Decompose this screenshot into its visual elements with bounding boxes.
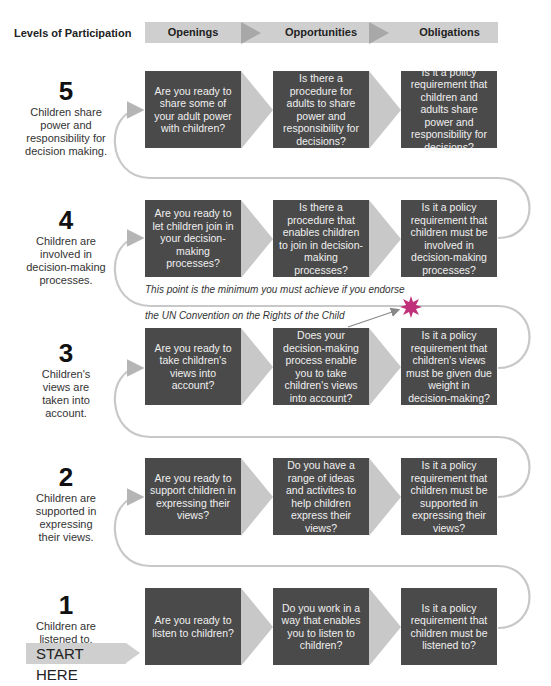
annotation-line-2: the UN Convention on the Rights of the C… <box>145 310 345 321</box>
level-1-label: 1 Children are listened to. <box>0 592 132 646</box>
level-description: Children's views are taken into account. <box>0 368 132 420</box>
stage-opportunities: Opportunities <box>273 22 369 43</box>
chevron-right-icon <box>241 22 261 44</box>
level-3-openings: Are you ready to take children's views i… <box>145 328 241 405</box>
chevron-right-icon <box>369 71 401 149</box>
chevron-right-icon <box>369 588 401 666</box>
chart-title: Levels of Participation <box>14 27 131 39</box>
level-3-label: 3 Children's views are taken into accoun… <box>0 340 132 420</box>
level-4-openings: Are you ready to let children join in yo… <box>145 200 241 277</box>
stage-openings: Openings <box>145 22 241 43</box>
level-description: Children are supported in expressing the… <box>0 492 132 544</box>
chevron-right-icon <box>369 458 401 536</box>
chevron-right-icon <box>241 71 273 149</box>
chevron-right-icon <box>241 458 273 536</box>
chevron-right-icon <box>369 328 401 406</box>
level-4-label: 4 Children are involved in decision-maki… <box>0 207 132 287</box>
level-number: 3 <box>0 340 132 366</box>
chevron-right-icon <box>241 200 273 278</box>
chevron-right-icon <box>241 328 273 406</box>
minimum-marker-star-icon <box>400 296 422 318</box>
stage-obligations: Obligations <box>401 22 498 43</box>
level-1-opportunities: Do you work in a way that enables you to… <box>273 588 369 665</box>
level-3-opportunities: Does your decision-making process enable… <box>273 328 369 405</box>
annotation-pointer <box>348 310 398 327</box>
level-1-obligations: Is it a policy requirement that children… <box>401 588 497 665</box>
level-number: 1 <box>0 592 132 618</box>
level-3-obligations: Is it a policy requirement that children… <box>401 328 497 405</box>
level-4-obligations: Is it a policy requirement that children… <box>401 200 497 277</box>
level-number: 2 <box>0 464 132 490</box>
chevron-right-icon <box>369 200 401 278</box>
level-2-opportunities: Do you have a range of ideas and activit… <box>273 458 369 535</box>
start-arrow-icon <box>126 643 140 663</box>
level-2-label: 2 Children are supported in expressing t… <box>0 464 132 544</box>
level-1-openings: Are you ready to listen to children? <box>145 588 241 665</box>
chevron-right-icon <box>241 588 273 666</box>
stage-header: Openings Opportunities Obligations <box>145 22 498 43</box>
level-number: 5 <box>0 78 132 104</box>
level-5-opportunities: Is there a procedure for adults to share… <box>273 71 369 148</box>
chevron-right-icon <box>369 22 389 44</box>
start-here-label: START HERE <box>26 643 126 664</box>
level-2-obligations: Is it a policy requirement that children… <box>401 458 497 535</box>
annotation-line-1: This point is the minimum you must achie… <box>145 284 405 295</box>
level-5-label: 5 Children share power and responsibilit… <box>0 78 132 158</box>
level-description: Children share power and responsibility … <box>0 106 132 158</box>
level-description: Children are involved in decision-making… <box>0 235 132 287</box>
level-number: 4 <box>0 207 132 233</box>
level-2-openings: Are you ready to support children in exp… <box>145 458 241 535</box>
level-5-obligations: Is it a policy requirement that children… <box>401 71 497 148</box>
level-5-openings: Are you ready to share some of your adul… <box>145 71 241 148</box>
level-4-opportunities: Is there a procedure that enables childr… <box>273 200 369 277</box>
